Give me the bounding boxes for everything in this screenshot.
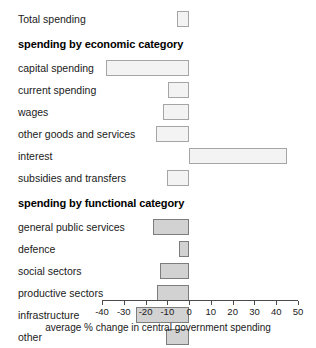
bar [160,263,189,279]
x-tick [102,301,103,305]
x-tick-label: -30 [117,306,131,317]
chart-figure: Total spendingspending by economic categ… [0,0,316,348]
x-tick-label: 30 [249,306,260,317]
x-tick [276,301,277,305]
bar [156,126,189,142]
x-tick [298,301,299,305]
bar [189,148,287,164]
x-tick-label: -10 [160,306,174,317]
x-tick [254,301,255,305]
x-axis: -40-30-20-1001020304050 average % change… [0,300,316,348]
bar-category-label: current spending [18,79,96,101]
x-tick-label: 10 [206,306,217,317]
bar-category-label: capital spending [18,57,94,79]
x-tick [211,301,212,305]
bar-category-label: general public services [18,216,125,238]
chart-row: capital spending [0,57,316,79]
x-axis-title: average % change in central government s… [0,322,316,333]
x-tick-label: 0 [186,306,191,317]
x-tick-label: 40 [271,306,282,317]
x-tick [167,301,168,305]
x-tick [233,301,234,305]
bar-category-label: interest [18,145,52,167]
x-tick-label: -20 [139,306,153,317]
x-tick [146,301,147,305]
bar [179,241,189,257]
chart-row: social sectors [0,260,316,282]
x-tick-label: -40 [95,306,109,317]
x-tick [189,301,190,305]
bar-category-label: Total spending [18,8,86,30]
chart-row: general public services [0,216,316,238]
bar [157,285,189,301]
chart-row: current spending [0,79,316,101]
bar-category-label: defence [18,238,55,260]
section-heading: spending by economic category [18,38,183,50]
bar-category-label: other goods and services [18,123,135,145]
bar [106,60,189,76]
bar [153,219,189,235]
x-axis-line [102,300,298,301]
chart-row: Total spending [0,8,316,30]
x-tick [124,301,125,305]
bar [168,82,189,98]
x-tick-label: 50 [293,306,304,317]
chart-row: wages [0,101,316,123]
bar [163,104,189,120]
x-tick-label: 20 [227,306,238,317]
chart-row: subsidies and transfers [0,167,316,189]
bar-category-label: social sectors [18,260,82,282]
bar [167,170,189,186]
bar-category-label: subsidies and transfers [18,167,126,189]
section-heading: spending by functional category [18,197,184,209]
bar [177,11,189,27]
chart-row: interest [0,145,316,167]
bar-category-label: wages [18,101,48,123]
chart-row: other goods and services [0,123,316,145]
chart-row: defence [0,238,316,260]
